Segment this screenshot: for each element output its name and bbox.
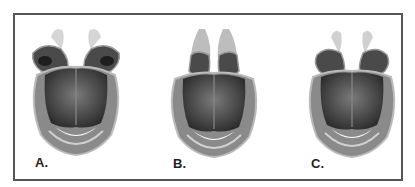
- panel-label-a: A.: [35, 155, 48, 170]
- panel-label-b: B.: [173, 156, 186, 171]
- panel-label-c: C.: [311, 156, 324, 171]
- figure-frame: A. B.: [13, 13, 403, 181]
- anatomy-illustration-c: [291, 15, 415, 179]
- panel-b: B.: [153, 15, 283, 179]
- panel-c: C.: [291, 15, 415, 179]
- panel-a: A.: [15, 15, 145, 179]
- anatomy-illustration-b: [153, 15, 283, 179]
